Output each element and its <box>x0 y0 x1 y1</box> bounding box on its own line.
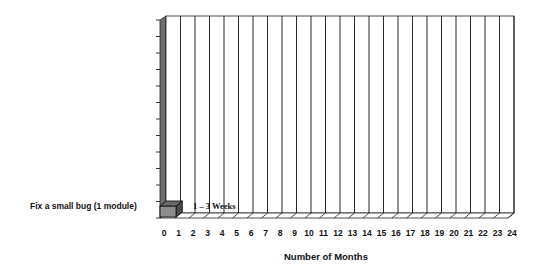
y-axis-ticks <box>156 20 160 218</box>
x-tick-label: 13 <box>348 228 357 238</box>
x-tick-label: 18 <box>420 228 429 238</box>
x-tick-label: 19 <box>435 228 444 238</box>
x-tick-label: 16 <box>391 228 400 238</box>
x-tick-label: 14 <box>362 228 371 238</box>
x-tick-label: 12 <box>333 228 342 238</box>
x-axis-title: Number of Months <box>284 251 368 262</box>
x-tick-label: 10 <box>304 228 313 238</box>
annotation-label: 1 – 3 Weeks <box>193 201 236 211</box>
x-tick-label: 3 <box>205 228 210 238</box>
x-tick-label: 15 <box>377 228 386 238</box>
x-tick-label: 2 <box>191 228 196 238</box>
x-tick-label: 22 <box>478 228 487 238</box>
chart: Fix a small bug (1 module) 1 – 3 Weeks 0… <box>0 0 540 274</box>
x-tick-label: 9 <box>292 228 297 238</box>
left-wall <box>160 16 166 218</box>
plot-area <box>0 0 540 274</box>
x-tick-label: 20 <box>449 228 458 238</box>
bars <box>160 201 182 217</box>
x-tick-label: 7 <box>263 228 268 238</box>
category-label: Fix a small bug (1 module) <box>30 201 137 211</box>
x-tick-label: 8 <box>278 228 283 238</box>
x-tick-label: 0 <box>162 228 167 238</box>
x-tick-label: 5 <box>234 228 239 238</box>
x-tick-label: 11 <box>319 228 328 238</box>
x-tick-label: 6 <box>249 228 254 238</box>
x-tick-label: 24 <box>507 228 516 238</box>
bar <box>160 206 176 217</box>
x-tick-label: 23 <box>493 228 502 238</box>
x-tick-label: 21 <box>464 228 473 238</box>
x-tick-label: 1 <box>176 228 181 238</box>
x-tick-label: 17 <box>406 228 415 238</box>
x-tick-label: 4 <box>220 228 225 238</box>
